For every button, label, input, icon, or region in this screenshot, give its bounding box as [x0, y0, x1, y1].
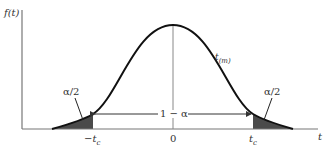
- left-tail-label: α/2: [63, 87, 79, 97]
- curve-label: t(m): [215, 53, 231, 65]
- tick-label-neg-tc: −tc: [84, 134, 100, 147]
- tick-neg-sub: c: [96, 139, 100, 147]
- tick-label-tc: tc: [249, 134, 257, 147]
- y-axis-label: f(t): [4, 8, 20, 18]
- curve-label-sub: (m): [219, 57, 231, 65]
- t-distribution-diagram: [0, 0, 333, 149]
- right-tail-label: α/2: [264, 87, 280, 97]
- tick-label-zero: 0: [170, 134, 176, 144]
- right-tail-pointer: [264, 98, 272, 120]
- central-area-label: 1 − α: [160, 109, 188, 119]
- left-tail-pointer: [75, 98, 83, 120]
- tick-neg-t: −t: [84, 133, 96, 144]
- tick-sub: c: [253, 139, 257, 147]
- x-axis-label: t: [318, 132, 322, 142]
